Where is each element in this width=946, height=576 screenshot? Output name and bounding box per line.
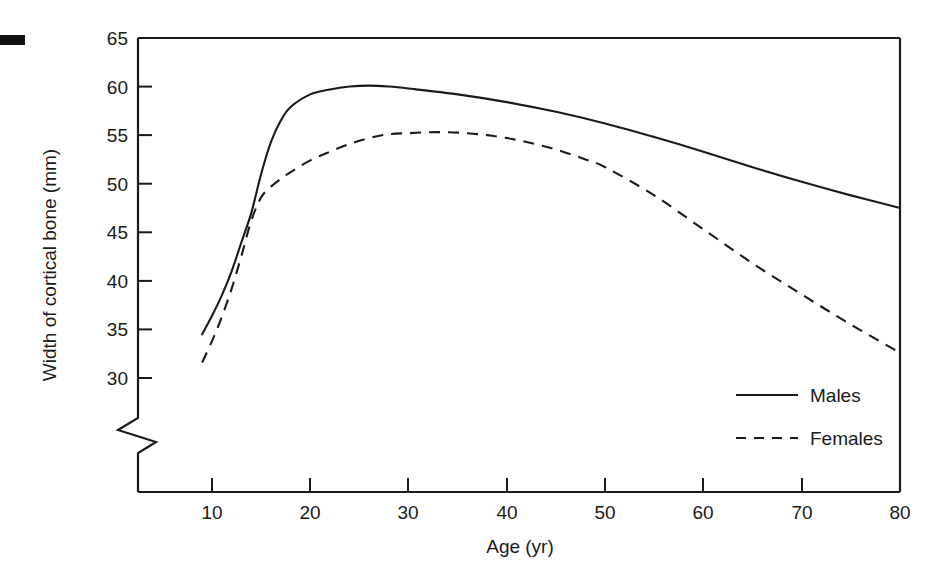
- x-tick-label-70: 70: [791, 502, 812, 523]
- x-tick-label-20: 20: [299, 502, 320, 523]
- y-axis-break-zigzag: [118, 412, 156, 492]
- y-tick-label-40: 40: [107, 271, 128, 292]
- legend-label-females: Females: [810, 428, 883, 449]
- y-tick-label-45: 45: [107, 222, 128, 243]
- x-tick-label-60: 60: [692, 502, 713, 523]
- x-tick-label-40: 40: [496, 502, 517, 523]
- corner-rectangle-marker: [0, 35, 25, 45]
- x-axis-tick-labels: 10 20 30 40 50 60 70 80: [201, 502, 910, 523]
- series-line-females: [202, 132, 900, 362]
- line-chart: 65 60 55 50 45 40 35 30 10 20 30 40 50: [0, 0, 946, 576]
- y-axis-title: Width of cortical bone (mm): [39, 149, 60, 381]
- y-tick-label-55: 55: [107, 125, 128, 146]
- axis-frame: [118, 38, 900, 492]
- figure-container: 65 60 55 50 45 40 35 30 10 20 30 40 50: [0, 0, 946, 576]
- y-tick-label-30: 30: [107, 368, 128, 389]
- x-tick-label-10: 10: [201, 502, 222, 523]
- x-tick-label-80: 80: [889, 502, 910, 523]
- x-tick-label-30: 30: [397, 502, 418, 523]
- x-axis-ticks: [212, 478, 900, 492]
- x-axis-title: Age (yr): [486, 536, 554, 557]
- y-tick-label-60: 60: [107, 77, 128, 98]
- data-series-group: [202, 86, 900, 363]
- x-tick-label-50: 50: [594, 502, 615, 523]
- legend: Males Females: [736, 385, 883, 449]
- y-tick-label-50: 50: [107, 174, 128, 195]
- y-tick-label-35: 35: [107, 319, 128, 340]
- y-axis-ticks: [138, 38, 152, 378]
- legend-label-males: Males: [810, 385, 861, 406]
- y-axis-tick-labels: 65 60 55 50 45 40 35 30: [107, 28, 128, 389]
- y-tick-label-65: 65: [107, 28, 128, 49]
- series-line-males: [202, 86, 900, 335]
